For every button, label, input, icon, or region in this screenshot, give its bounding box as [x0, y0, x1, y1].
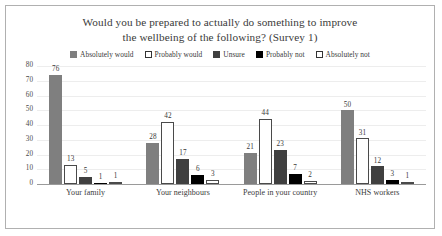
x-axis-category-label: People in your country — [232, 188, 329, 197]
x-axis-category-label: Your family — [37, 188, 134, 197]
bar-slot: 23 — [273, 66, 288, 184]
bar[interactable] — [176, 159, 189, 184]
bar-slot: 13 — [63, 66, 78, 184]
bar-value-label: 50 — [344, 102, 351, 109]
bar-value-label: 1 — [114, 173, 118, 180]
y-axis-tick-label: 30 — [26, 136, 33, 143]
bar-value-label: 13 — [67, 156, 74, 163]
bar[interactable] — [341, 110, 354, 184]
y-axis-tick-label: 10 — [26, 166, 33, 173]
bar[interactable] — [401, 182, 414, 184]
y-axis-tick-label: 40 — [26, 121, 33, 128]
plot-area: 7613511284217632144237250311231 — [37, 66, 426, 185]
y-axis-tick-label: 70 — [26, 77, 33, 84]
bar-slot: 21 — [243, 66, 258, 184]
legend-item[interactable]: Probably would — [145, 50, 203, 59]
chart-figure: Would you be prepared to actually do som… — [5, 5, 435, 229]
bar-slot: 3 — [205, 66, 220, 184]
chart-title-line-1: Would you be prepared to actually do som… — [6, 15, 434, 30]
legend-item-label: Absolutely would — [80, 50, 134, 59]
legend-item-label: Unsure — [223, 50, 245, 59]
bar-slot: 42 — [160, 66, 175, 184]
bar-value-label: 3 — [211, 171, 215, 178]
legend-item-label: Probably not — [266, 50, 305, 59]
x-axis: Your familyYour neighboursPeople in your… — [37, 188, 426, 197]
bar[interactable] — [191, 175, 204, 184]
bar-value-label: 23 — [277, 141, 284, 148]
bar[interactable] — [371, 166, 384, 184]
legend-item[interactable]: Absolutely would — [70, 50, 134, 59]
bar-slot: 2 — [303, 66, 318, 184]
bar-group: 21442372 — [232, 66, 329, 184]
y-axis-tick-label: 80 — [26, 62, 33, 69]
bar[interactable] — [244, 153, 257, 184]
bar-slot: 17 — [175, 66, 190, 184]
bar-value-label: 1 — [406, 173, 410, 180]
bar[interactable] — [206, 180, 219, 184]
bar-slot: 31 — [355, 66, 370, 184]
bar[interactable] — [79, 177, 92, 184]
legend-swatch-icon — [256, 51, 263, 58]
bar[interactable] — [49, 75, 62, 184]
bar[interactable] — [259, 119, 272, 184]
bar-group: 28421763 — [134, 66, 231, 184]
bar[interactable] — [64, 165, 77, 184]
legend-swatch-icon — [213, 51, 220, 58]
y-axis-tick-label: 60 — [26, 92, 33, 99]
bar-slot: 5 — [78, 66, 93, 184]
bar[interactable] — [146, 143, 159, 184]
bar-slot: 3 — [385, 66, 400, 184]
bar-value-label: 76 — [52, 66, 59, 73]
y-axis-tick-label: 50 — [26, 107, 33, 114]
legend-item-label: Absolutely not — [326, 50, 370, 59]
bar-value-label: 21 — [247, 144, 254, 151]
chart-title: Would you be prepared to actually do som… — [6, 6, 434, 44]
bar-slot: 44 — [258, 66, 273, 184]
bar-slot: 50 — [340, 66, 355, 184]
bar-value-label: 17 — [179, 150, 186, 157]
bar-value-label: 5 — [84, 168, 88, 175]
bar[interactable] — [289, 174, 302, 184]
bar[interactable] — [161, 122, 174, 184]
bar[interactable] — [109, 182, 122, 184]
bar[interactable] — [274, 150, 287, 184]
legend-item[interactable]: Absolutely not — [316, 50, 370, 59]
bar-value-label: 2 — [308, 172, 312, 179]
y-axis-tick-label: 20 — [26, 151, 33, 158]
y-axis: 80706050403020100 — [6, 66, 36, 184]
chart-legend: Absolutely wouldProbably wouldUnsureProb… — [6, 50, 434, 59]
bar-slot: 28 — [145, 66, 160, 184]
bar[interactable] — [304, 181, 317, 184]
bar-value-label: 28 — [149, 134, 156, 141]
x-axis-category-label: Your neighbours — [134, 188, 231, 197]
legend-swatch-icon — [70, 51, 77, 58]
bar-value-label: 31 — [359, 130, 366, 137]
bar-slot: 1 — [108, 66, 123, 184]
legend-item[interactable]: Probably not — [256, 50, 305, 59]
bar-value-label: 42 — [164, 113, 171, 120]
bar-value-label: 6 — [196, 166, 200, 173]
bar[interactable] — [386, 180, 399, 184]
y-axis-tick-label: 0 — [29, 180, 33, 187]
bar-groups: 7613511284217632144237250311231 — [37, 66, 426, 184]
bar-value-label: 7 — [293, 165, 297, 172]
chart-title-line-2: the wellbeing of the following? (Survey … — [6, 30, 434, 45]
bar[interactable] — [356, 138, 369, 184]
bar-slot: 6 — [190, 66, 205, 184]
bar-group: 7613511 — [37, 66, 134, 184]
bar-value-label: 1 — [99, 174, 103, 181]
bar-slot: 12 — [370, 66, 385, 184]
x-axis-category-label: NHS workers — [329, 188, 426, 197]
bar-value-label: 12 — [374, 158, 381, 165]
bar-value-label: 44 — [262, 110, 269, 117]
bar-slot: 76 — [48, 66, 63, 184]
bar[interactable] — [94, 183, 107, 185]
bar-slot: 7 — [288, 66, 303, 184]
bar-slot: 1 — [93, 66, 108, 184]
legend-item-label: Probably would — [155, 50, 203, 59]
legend-swatch-icon — [145, 51, 152, 58]
legend-item[interactable]: Unsure — [213, 50, 245, 59]
bar-group: 50311231 — [329, 66, 426, 184]
plot-wrapper: 80706050403020100 7613511284217632144237… — [6, 66, 434, 206]
bar-slot: 1 — [400, 66, 415, 184]
